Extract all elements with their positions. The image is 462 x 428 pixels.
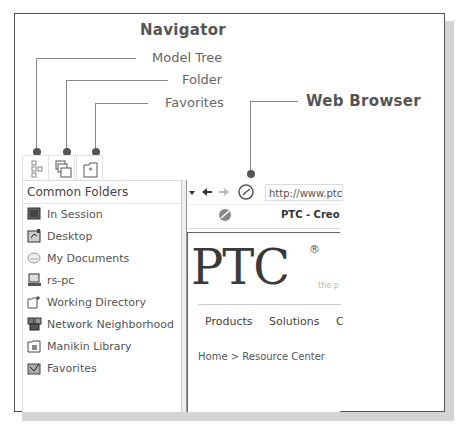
favorites-callout-label: Favorites bbox=[165, 95, 224, 110]
folder-item-favorites[interactable]: Favorites bbox=[27, 359, 97, 377]
site-menu: Products Solutions C bbox=[205, 315, 357, 328]
browser-page: PTC ® the p Products Solutions C Home > … bbox=[187, 232, 340, 412]
my-documents-icon bbox=[27, 251, 42, 265]
folder-item-working-directory[interactable]: Working Directory bbox=[27, 293, 146, 311]
folder-item-my-documents[interactable]: My Documents bbox=[27, 249, 129, 267]
folder-leader-h bbox=[66, 80, 168, 81]
model-tree-tab[interactable] bbox=[22, 155, 49, 181]
svg-text:*: * bbox=[89, 167, 93, 176]
in-session-icon bbox=[27, 207, 42, 221]
favorites-tab[interactable]: * bbox=[76, 155, 103, 181]
web-browser-leader-dot bbox=[247, 170, 255, 178]
model-tree-leader-v bbox=[36, 58, 37, 150]
navigator-callout-title: Navigator bbox=[140, 21, 226, 39]
manikin-library-icon bbox=[27, 339, 42, 353]
web-browser-leader-h bbox=[250, 101, 298, 102]
browser-tab-bar: PTC - Creo bbox=[187, 204, 340, 229]
web-browser: http://www.ptc. PTC - Creo PTC ® the p P… bbox=[186, 180, 340, 412]
folder-item-in-session[interactable]: In Session bbox=[27, 205, 103, 223]
model-tree-callout-label: Model Tree bbox=[152, 50, 222, 65]
browser-toolbar: http://www.ptc. bbox=[187, 180, 340, 205]
favorites-leader-h bbox=[95, 103, 148, 104]
web-browser-callout-title: Web Browser bbox=[306, 92, 421, 110]
ptc-tagline: the p bbox=[318, 281, 339, 290]
ptc-logo[interactable]: PTC bbox=[191, 237, 289, 297]
forward-button[interactable] bbox=[217, 184, 231, 200]
favorites-folder-icon bbox=[27, 361, 42, 375]
url-field[interactable]: http://www.ptc. bbox=[265, 184, 343, 201]
desktop-icon bbox=[27, 229, 42, 243]
folder-item-manikin-library[interactable]: Manikin Library bbox=[27, 337, 132, 355]
model-tree-icon bbox=[23, 156, 50, 182]
breadcrumb: Home > Resource Center bbox=[198, 351, 325, 362]
folder-callout-label: Folder bbox=[182, 72, 222, 87]
folder-leader-v bbox=[66, 80, 67, 150]
favorites-leader-v bbox=[95, 103, 96, 150]
browser-tab-title[interactable]: PTC - Creo bbox=[281, 209, 340, 220]
navigator-panel: Common Folders In Session Desktop My Doc… bbox=[22, 180, 183, 412]
web-browser-leader-v bbox=[250, 101, 251, 172]
folder-item-rs-pc[interactable]: rs-pc bbox=[27, 271, 74, 289]
folder-icon bbox=[49, 156, 76, 182]
menu-solutions[interactable]: Solutions bbox=[269, 315, 320, 328]
model-tree-leader-h bbox=[36, 58, 136, 59]
folder-item-desktop[interactable]: Desktop bbox=[27, 227, 92, 245]
working-directory-icon bbox=[27, 295, 42, 309]
favorites-icon: * bbox=[77, 156, 104, 182]
network-icon bbox=[27, 317, 42, 331]
registered-mark: ® bbox=[309, 243, 320, 256]
back-button[interactable] bbox=[200, 184, 214, 200]
page-loading-icon bbox=[217, 207, 233, 223]
folder-item-network-neighborhood[interactable]: Network Neighborhood bbox=[27, 315, 174, 333]
dropdown-arrow-icon[interactable] bbox=[189, 190, 195, 196]
divider bbox=[198, 304, 341, 305]
history-icon[interactable] bbox=[236, 182, 256, 202]
folder-tab[interactable] bbox=[48, 155, 75, 181]
menu-products[interactable]: Products bbox=[205, 315, 253, 328]
menu-c[interactable]: C bbox=[336, 315, 344, 328]
common-folders-header: Common Folders bbox=[23, 181, 182, 204]
computer-icon bbox=[27, 273, 42, 287]
